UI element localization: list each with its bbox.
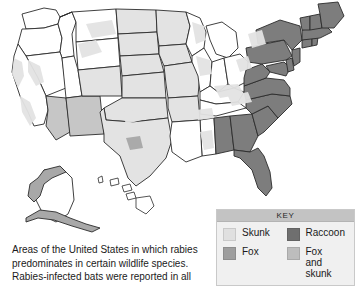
legend-label-fox-and-skunk: Fox and skunk xyxy=(306,246,351,279)
figure-caption: Areas of the United States in which rabi… xyxy=(12,243,212,284)
legend-label-fox: Fox xyxy=(242,246,259,257)
swatch-raccoon xyxy=(287,228,300,241)
state-arkansas[interactable] xyxy=(168,96,200,122)
state-idaho[interactable] xyxy=(58,12,76,58)
legend-row-1: Skunk Raccoon xyxy=(223,227,350,241)
state-kansas[interactable] xyxy=(122,72,166,98)
map-legend: KEY Skunk Raccoon Fox Fox xyxy=(216,209,355,286)
state-oregon[interactable] xyxy=(18,24,62,56)
legend-label-raccoon: Raccoon xyxy=(306,227,345,238)
caption-line-3: Rabies-infected bats were reported in al… xyxy=(12,270,212,284)
united-states-map[interactable] xyxy=(0,0,357,240)
state-florida[interactable] xyxy=(234,148,272,196)
legend-entries: Skunk Raccoon Fox Fox and skunk xyxy=(217,222,354,285)
legend-row-2: Fox Fox and skunk xyxy=(223,246,350,279)
caption-line-1: Areas of the United States in which rabi… xyxy=(12,243,212,257)
swatch-fox xyxy=(223,247,236,260)
us-map-container xyxy=(0,0,357,240)
state-vermont[interactable] xyxy=(300,16,310,30)
legend-item-skunk[interactable]: Skunk xyxy=(223,227,287,241)
state-maine[interactable] xyxy=(318,2,344,28)
state-north-dakota[interactable] xyxy=(116,9,157,34)
legend-item-fox[interactable]: Fox xyxy=(223,246,287,260)
caption-line-2: predominates in certain wildlife species… xyxy=(12,257,212,271)
state-south-dakota[interactable] xyxy=(118,32,159,56)
legend-label-skunk: Skunk xyxy=(242,227,270,238)
rabies-wildlife-figure: KEY Skunk Raccoon Fox Fox xyxy=(0,0,357,287)
state-louisiana[interactable] xyxy=(170,120,202,162)
state-michigan[interactable] xyxy=(206,22,238,58)
state-new-mexico[interactable] xyxy=(66,96,104,136)
swatch-fox-and-skunk xyxy=(287,247,300,260)
state-new-jersey[interactable] xyxy=(292,48,300,66)
legend-item-fox-and-skunk[interactable]: Fox and skunk xyxy=(287,246,351,279)
state-colorado[interactable] xyxy=(78,66,122,96)
swatch-skunk xyxy=(223,228,236,241)
state-hawaii[interactable] xyxy=(98,176,154,214)
legend-item-raccoon[interactable]: Raccoon xyxy=(287,227,351,241)
state-minnesota[interactable] xyxy=(156,10,190,46)
legend-title: KEY xyxy=(217,210,354,222)
